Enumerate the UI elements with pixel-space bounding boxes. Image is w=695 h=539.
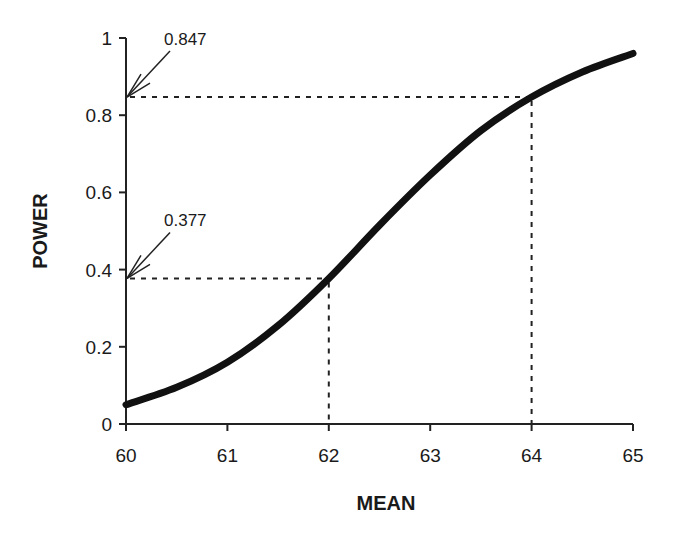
y-tick-label: 0.4 — [86, 260, 113, 281]
x-axis-title: MEAN — [357, 492, 416, 514]
dashed-guide-lines — [130, 97, 532, 424]
y-tick-label: 0.2 — [86, 337, 112, 358]
x-tick-label: 62 — [318, 445, 339, 466]
arrow-icon — [127, 232, 170, 278]
annotations: 0.8470.377 — [127, 30, 207, 278]
arrow-icon — [127, 51, 170, 97]
y-axis-title: POWER — [29, 193, 51, 269]
annotation-label: 0.377 — [164, 211, 207, 230]
axes: 60616263646500.20.40.60.81 — [86, 28, 644, 466]
y-tick-label: 1 — [101, 28, 112, 49]
x-tick-label: 63 — [420, 445, 441, 466]
y-tick-label: 0.6 — [86, 182, 112, 203]
y-tick-label: 0 — [101, 414, 112, 435]
annotation-label: 0.847 — [164, 30, 207, 49]
y-tick-label: 0.8 — [86, 105, 112, 126]
x-tick-label: 61 — [217, 445, 238, 466]
x-tick-label: 64 — [521, 445, 543, 466]
power-curve-chart: 60616263646500.20.40.60.81 0.8470.377 ME… — [0, 0, 695, 539]
x-tick-label: 65 — [622, 445, 643, 466]
x-tick-label: 60 — [115, 445, 136, 466]
